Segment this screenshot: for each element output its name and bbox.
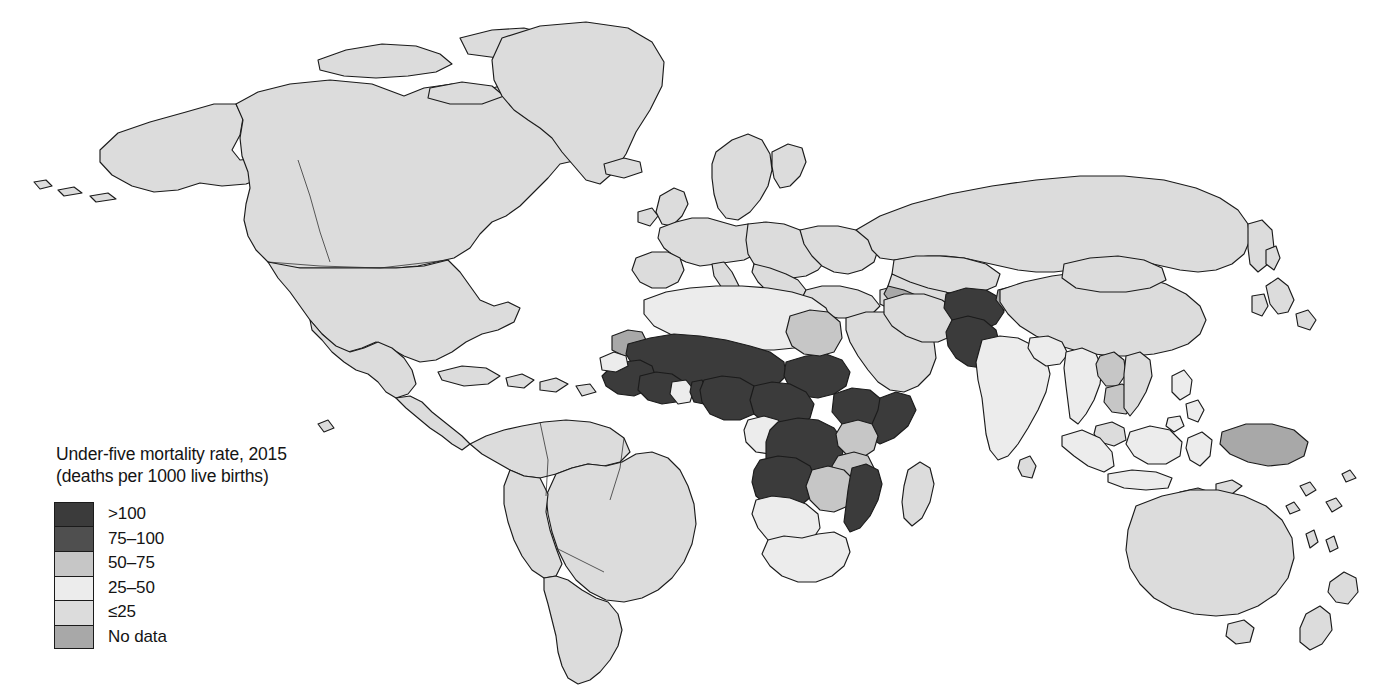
legend-label: 25–50 — [108, 578, 155, 598]
legend-row: 75–100 — [54, 526, 324, 551]
legend-swatch — [54, 600, 94, 625]
legend-swatch — [54, 502, 94, 527]
legend-label: No data — [108, 627, 167, 647]
legend-swatch — [54, 576, 94, 601]
legend-row: ≤25 — [54, 600, 324, 625]
map-legend: Under-five mortality rate, 2015 (deaths … — [54, 443, 324, 649]
legend-swatch — [54, 526, 94, 551]
legend-row: 25–50 — [54, 576, 324, 601]
legend-rows: >100 75–100 50–75 25–50 ≤25 No data — [54, 502, 324, 650]
legend-swatch — [54, 625, 94, 650]
legend-row: >100 — [54, 502, 324, 527]
legend-title: Under-five mortality rate, 2015 (deaths … — [56, 443, 324, 488]
legend-swatch — [54, 551, 94, 576]
world-map-figure: .ld{fill:#3b3b3b;} /* >100 */ .dk{fill:#… — [0, 0, 1386, 696]
legend-row: No data — [54, 625, 324, 650]
legend-label: ≤25 — [108, 602, 136, 622]
legend-label: 50–75 — [108, 553, 155, 573]
legend-row: 50–75 — [54, 551, 324, 576]
legend-label: >100 — [108, 504, 146, 524]
legend-label: 75–100 — [108, 529, 164, 549]
